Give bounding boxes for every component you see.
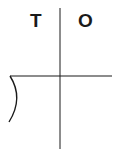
column-label-tens: T bbox=[30, 11, 42, 30]
diagram-lines bbox=[0, 0, 115, 149]
column-label-ones: O bbox=[78, 11, 93, 30]
division-bracket-arc bbox=[9, 76, 17, 122]
